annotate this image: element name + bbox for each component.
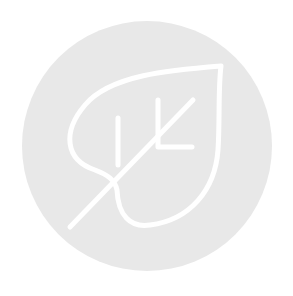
leaf-badge xyxy=(0,0,293,296)
leaf-icon xyxy=(0,0,293,296)
